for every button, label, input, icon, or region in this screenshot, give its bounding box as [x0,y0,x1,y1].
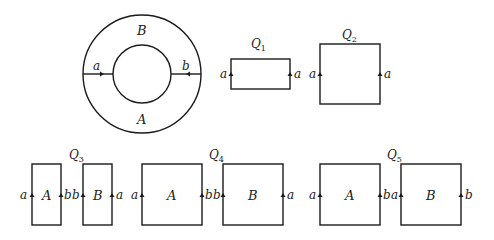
q5-a-left-label: a [309,188,316,202]
q3-a-left-label: a [20,188,27,202]
edge-a-label: a [93,59,100,73]
q5-a-right-arrow-icon [378,193,383,197]
q3-a-right-arrow-icon [59,193,64,197]
q4-b-region: B [247,188,258,203]
q4-b-left-label: b [213,188,221,202]
q5-b-region: B [425,188,436,203]
q3-a-left-arrow-icon [30,193,35,197]
q1-right-label: a [294,67,301,81]
q1-left-label: a [220,67,227,81]
q5-b-left-arrow-icon [399,193,404,197]
q1-figure: Q1 a a [220,37,301,89]
q1-rect [231,59,290,89]
q2-title: Q2 [342,28,357,44]
q4-b-right-label: a [287,188,294,202]
q4-figure: Q4 a A b b B a [131,148,294,225]
edge-b-label: b [182,59,190,73]
q2-left-label: a [309,67,316,81]
q5-a-left-arrow-icon [318,193,323,197]
q5-b-right-arrow-icon [459,193,464,197]
q5-a-right-label: b [383,188,391,202]
q2-right-label: a [384,67,391,81]
q5-b-right-label: b [465,188,473,202]
q2-rect [320,44,380,104]
q4-a-right-arrow-icon [200,193,205,197]
q4-b-right-arrow-icon [281,193,286,197]
q4-b-left-arrow-icon [221,193,226,197]
q1-right-arrow-icon [288,72,293,76]
arrow-a-icon [100,72,104,77]
region-a-label: A [136,112,146,127]
q1-left-arrow-icon [229,72,234,76]
q1-title: Q1 [251,37,266,53]
region-b-label: B [136,23,147,38]
q3-title: Q3 [69,148,84,164]
q3-a-region: A [41,188,51,203]
q5-title: Q5 [387,148,402,164]
annulus-figure: a b B A [83,15,201,133]
q3-b-region: B [92,188,103,203]
q3-b-left-arrow-icon [81,193,86,197]
q4-title: Q4 [209,148,224,164]
q3-figure: Q3 a A b b B a [20,148,123,225]
inner-circle [113,45,171,103]
q3-b-left-label: b [72,188,80,202]
quotient-spaces-diagram: a b B A Q1 a a Q2 a a Q3 a A b b B a [0,0,494,240]
q5-b-left-label: a [391,188,398,202]
q2-figure: Q2 a a [309,28,391,104]
q2-right-arrow-icon [378,72,383,76]
q5-a-region: A [344,188,354,203]
q4-a-left-arrow-icon [140,193,145,197]
q2-left-arrow-icon [318,72,323,76]
q3-b-right-label: a [116,188,123,202]
q3-a-right-label: b [64,188,72,202]
q4-a-left-label: a [131,188,138,202]
q5-figure: Q5 a A b a B b [309,148,473,225]
q3-b-right-arrow-icon [110,193,115,197]
q4-a-right-label: b [205,188,213,202]
q4-a-region: A [166,188,176,203]
